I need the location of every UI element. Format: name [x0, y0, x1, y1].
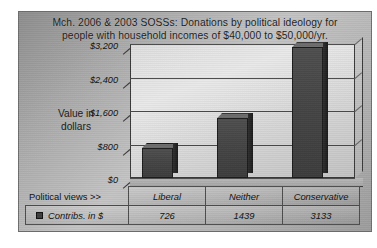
- bar-side-neither: [248, 113, 253, 173]
- table-header-liberal: Liberal: [128, 186, 206, 206]
- ytick-label-3200: $3,200: [70, 41, 118, 51]
- ytick-label-1600: $1,600: [70, 108, 118, 118]
- table-row-header: Political views >> Liberal Neither Conse…: [26, 187, 363, 206]
- table-header-neither: Neither: [205, 186, 283, 206]
- bar-liberal[interactable]: [142, 148, 173, 178]
- table-cell-conservative-value: 3133: [282, 205, 360, 225]
- bar-side-conservative: [323, 42, 328, 173]
- ytick-label-0: $0: [70, 175, 118, 185]
- bar-conservative[interactable]: [292, 47, 323, 178]
- x-axis-label: Political views >>: [25, 186, 129, 206]
- table-cell-liberal-value: 726: [128, 205, 206, 225]
- table-row: Contribs. in $ 726 1439 3133: [26, 206, 363, 225]
- legend-swatch-icon: [36, 212, 43, 219]
- gridline-0: [130, 178, 355, 179]
- ytick-label-2400: $2,400: [70, 75, 118, 85]
- chart-object: Mch. 2006 & 2003 SOSSs: Donations by pol…: [18, 11, 372, 232]
- table-cell-neither-value: 1439: [205, 205, 283, 225]
- bar-side-liberal: [173, 143, 178, 173]
- bar-neither[interactable]: [217, 118, 248, 178]
- table-header-conservative: Conservative: [282, 186, 360, 206]
- legend-label: Contribs. in $: [48, 210, 103, 221]
- legend-entry-contribs: Contribs. in $: [25, 205, 129, 225]
- data-table: Political views >> Liberal Neither Conse…: [26, 187, 363, 225]
- ytick-label-800: $800: [70, 142, 118, 152]
